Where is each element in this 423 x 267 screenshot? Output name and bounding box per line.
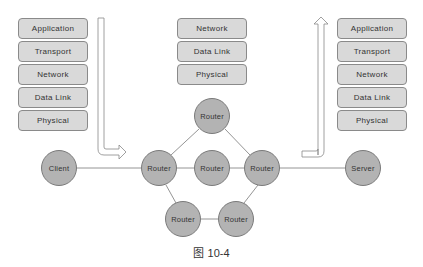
router-node-bottom-left: Router (165, 201, 201, 237)
router-node-right: Router (244, 150, 280, 186)
server-node: Server (345, 150, 381, 186)
figure-caption: 图 10-4 (0, 244, 423, 260)
up-arrow-icon (302, 17, 328, 157)
router-node-left: Router (141, 150, 177, 186)
router-node-bottom-right: Router (218, 201, 254, 237)
down-arrow-icon (98, 18, 126, 159)
client-node: Client (41, 150, 77, 186)
router-node-center: Router (194, 150, 230, 186)
router-node-top: Router (194, 98, 230, 134)
